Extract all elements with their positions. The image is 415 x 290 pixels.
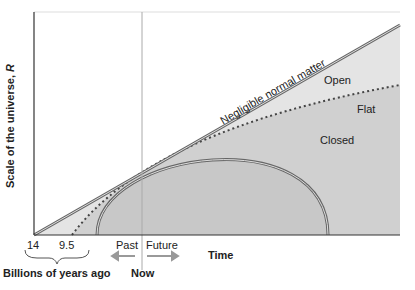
y-axis-label: Scale of the universe, R bbox=[4, 64, 16, 188]
future-arrow-icon bbox=[147, 252, 178, 260]
brace-icon bbox=[25, 250, 89, 264]
tick-9-5: 9.5 bbox=[59, 239, 74, 251]
now-label: Now bbox=[131, 267, 154, 279]
open-label: Open bbox=[324, 74, 351, 86]
past-arrow-icon bbox=[112, 252, 135, 260]
tick-14: 14 bbox=[27, 239, 39, 251]
billions-label: Billions of years ago bbox=[3, 267, 111, 279]
flat-label: Flat bbox=[357, 103, 375, 115]
closed-label: Closed bbox=[320, 134, 354, 146]
past-label: Past bbox=[116, 239, 138, 251]
future-label: Future bbox=[146, 239, 178, 251]
time-label: Time bbox=[208, 249, 233, 261]
